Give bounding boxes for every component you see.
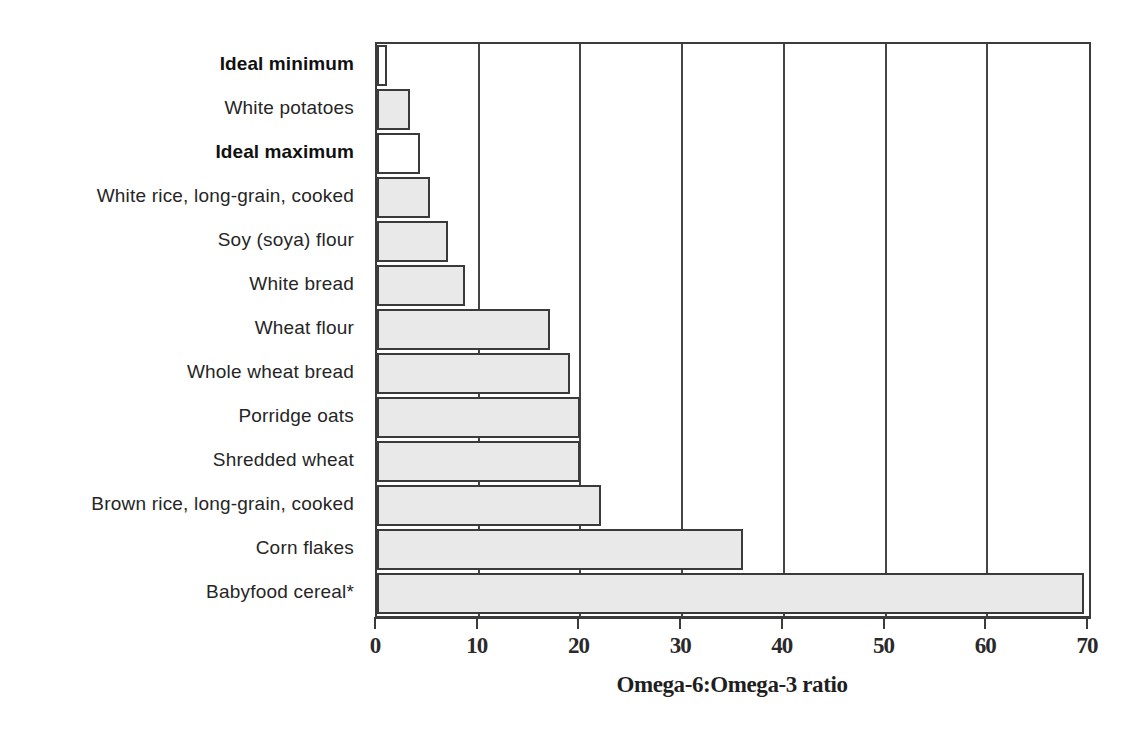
category-label: Ideal minimum <box>220 42 354 86</box>
x-axis-title: Omega-6:Omega-3 ratio <box>375 672 1089 698</box>
x-tick-label: 50 <box>854 633 914 659</box>
category-axis-labels: Ideal minimumWhite potatoesIdeal maximum… <box>0 42 362 614</box>
bar <box>377 573 1084 614</box>
x-tick-label: 60 <box>955 633 1015 659</box>
bar-row <box>377 308 1089 352</box>
category-label: Brown rice, long-grain, cooked <box>91 482 354 526</box>
category-label: Shredded wheat <box>213 438 354 482</box>
bar <box>377 45 387 86</box>
category-label: Wheat flour <box>255 306 354 350</box>
category-label: Porridge oats <box>238 394 354 438</box>
bar-row <box>377 528 1089 572</box>
bar-row <box>377 572 1089 616</box>
x-tick-label: 30 <box>650 633 710 659</box>
bar-row <box>377 440 1089 484</box>
category-label: White potatoes <box>224 86 354 130</box>
bar <box>377 441 580 482</box>
x-tick-label: 10 <box>447 633 507 659</box>
bar <box>377 221 448 262</box>
bar <box>377 353 570 394</box>
bar <box>377 309 550 350</box>
plot-area <box>375 42 1091 619</box>
x-tick-60 <box>984 617 986 629</box>
x-tick-label: 70 <box>1057 633 1117 659</box>
bar-row <box>377 220 1089 264</box>
category-label: Corn flakes <box>256 526 354 570</box>
bar-row <box>377 88 1089 132</box>
x-tick-30 <box>679 617 681 629</box>
x-tick-40 <box>781 617 783 629</box>
category-label: White bread <box>249 262 354 306</box>
bar-row <box>377 396 1089 440</box>
category-label: Babyfood cereal* <box>206 570 354 614</box>
bar <box>377 177 430 218</box>
category-label: Whole wheat bread <box>187 350 354 394</box>
x-tick-20 <box>577 617 579 629</box>
bar-row <box>377 176 1089 220</box>
bar-row <box>377 484 1089 528</box>
bar-row <box>377 264 1089 308</box>
x-tick-label: 0 <box>345 633 405 659</box>
x-tick-label: 20 <box>548 633 608 659</box>
bar <box>377 485 601 526</box>
x-tick-10 <box>476 617 478 629</box>
bar <box>377 529 743 570</box>
category-label: White rice, long-grain, cooked <box>97 174 354 218</box>
bar <box>377 133 420 174</box>
category-label: Soy (soya) flour <box>218 218 354 262</box>
x-tick-70 <box>1086 617 1088 629</box>
category-label: Ideal maximum <box>215 130 354 174</box>
bar <box>377 89 410 130</box>
x-tick-0 <box>374 617 376 629</box>
plot-inner <box>377 44 1089 616</box>
bar-row <box>377 44 1089 88</box>
x-tick-50 <box>883 617 885 629</box>
bar-row <box>377 132 1089 176</box>
x-tick-label: 40 <box>752 633 812 659</box>
bar-row <box>377 352 1089 396</box>
bar <box>377 397 580 438</box>
omega-ratio-bar-chart: Ideal minimumWhite potatoesIdeal maximum… <box>0 0 1128 737</box>
bar <box>377 265 465 306</box>
